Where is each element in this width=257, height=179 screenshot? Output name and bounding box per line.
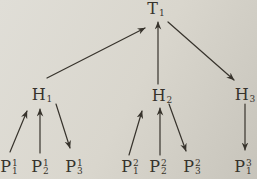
script-stack: 2 1 <box>133 159 139 175</box>
node-base: H <box>152 86 166 105</box>
node-subscript: 2 <box>167 95 173 105</box>
script-stack: 2 3 <box>195 159 201 175</box>
node-subscript: 1 <box>12 167 18 175</box>
script-stack: 1 3 <box>77 159 83 175</box>
node-subscript: 1 <box>159 8 165 18</box>
node-subscript: 1 <box>133 167 139 175</box>
node-base: P <box>65 157 76 176</box>
script-stack: 1 2 <box>43 159 49 175</box>
node-base: H <box>235 85 249 104</box>
script-stack: 1 1 <box>12 159 18 175</box>
node-subscript: 2 <box>161 167 167 175</box>
edge-H1-T1 <box>47 28 145 78</box>
scanned-diagram-page: T 1 H 1 H 2 H 3 P 1 1 P 1 2 P 1 3 P <box>0 0 257 179</box>
node-subscript: 3 <box>77 167 83 175</box>
node-base: P <box>183 157 194 176</box>
node-subscript: 3 <box>250 94 256 104</box>
node-P31: P 3 1 <box>234 157 252 176</box>
script-stack: 2 2 <box>161 159 167 175</box>
node-P23: P 2 3 <box>183 157 201 176</box>
node-T1: T 1 <box>147 0 164 18</box>
edge-T1-H3 <box>168 22 234 80</box>
node-base: H <box>32 85 46 104</box>
edge-H1-P13 <box>56 104 70 148</box>
node-base: P <box>0 157 11 176</box>
node-P11: P 1 1 <box>0 157 18 176</box>
node-base: P <box>31 157 42 176</box>
node-H2: H 2 <box>152 86 173 105</box>
edge-P11-H1 <box>10 111 27 152</box>
script-stack: 3 1 <box>246 159 252 175</box>
node-subscript: 1 <box>47 94 53 104</box>
node-subscript: 2 <box>43 167 49 175</box>
node-base: P <box>149 157 160 176</box>
node-subscript: 3 <box>195 167 201 175</box>
edge-H2-P23 <box>169 104 186 151</box>
node-H3: H 3 <box>235 85 256 104</box>
node-base: P <box>234 157 245 176</box>
node-H1: H 1 <box>32 85 53 104</box>
node-P13: P 1 3 <box>65 157 83 176</box>
node-P21: P 2 1 <box>121 157 139 176</box>
node-P22: P 2 2 <box>149 157 167 176</box>
node-base: P <box>121 157 132 176</box>
node-subscript: 1 <box>246 167 252 175</box>
node-base: T <box>147 0 158 18</box>
node-P12: P 1 2 <box>31 157 49 176</box>
edge-P21-H2 <box>129 111 142 155</box>
